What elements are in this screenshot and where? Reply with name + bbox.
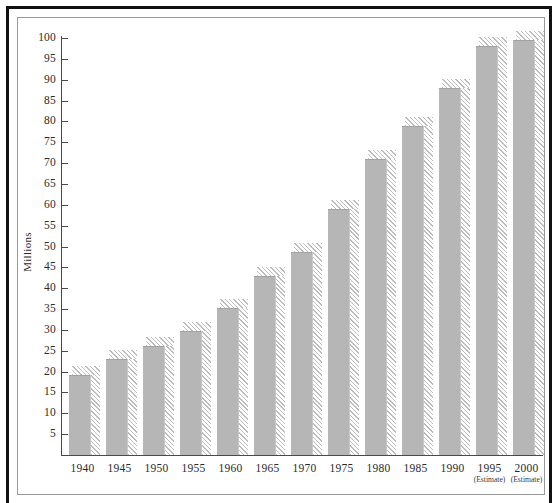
bar-shadow-hatch bbox=[90, 366, 100, 455]
y-axis-tick-label-text: 40 bbox=[30, 282, 56, 294]
bar-shadow-hatch bbox=[386, 150, 396, 455]
bar-solid-fill bbox=[402, 126, 423, 455]
y-axis-tick bbox=[61, 351, 68, 352]
bar-top-hatch bbox=[146, 337, 174, 346]
y-axis-tick-label-text: 10 bbox=[30, 407, 56, 419]
y-axis-tick-label: 40 bbox=[26, 282, 56, 294]
y-axis-tick-label-text: 100 bbox=[30, 32, 56, 44]
bar-solid-fill bbox=[513, 40, 534, 455]
bar-shadow-hatch bbox=[164, 337, 174, 455]
y-axis-tick-label: 30 bbox=[26, 324, 56, 336]
chart-page: Millions 5101520253035404550556065707580… bbox=[0, 0, 552, 503]
bar-1940 bbox=[69, 366, 100, 455]
y-axis-tick bbox=[61, 434, 68, 435]
bar-chart-plot: Millions 5101520253035404550556065707580… bbox=[0, 0, 552, 503]
bar-top-hatch bbox=[479, 37, 507, 46]
bar-1990 bbox=[439, 79, 470, 455]
y-axis-tick-label: 50 bbox=[26, 241, 56, 253]
y-axis-tick-label-text: 35 bbox=[30, 303, 56, 315]
bar-shadow-hatch bbox=[534, 31, 544, 455]
y-axis-tick bbox=[61, 288, 68, 289]
bar-shadow-hatch bbox=[497, 37, 507, 455]
bar-1980 bbox=[365, 150, 396, 455]
bar-solid-fill bbox=[143, 346, 164, 455]
bar-1995 bbox=[476, 37, 507, 455]
bar-top-hatch bbox=[257, 267, 285, 276]
bar-1985 bbox=[402, 117, 433, 455]
bar-1955 bbox=[180, 322, 211, 455]
y-axis-tick-label: 100 bbox=[26, 32, 56, 44]
y-axis-tick-label: 45 bbox=[26, 261, 56, 273]
bar-shadow-hatch bbox=[127, 350, 137, 455]
x-axis-label-year: 1940 bbox=[71, 462, 95, 474]
bar-shadow-hatch bbox=[238, 299, 248, 455]
bar-1950 bbox=[143, 337, 174, 455]
y-axis-tick-label-text: 60 bbox=[30, 199, 56, 211]
x-axis-line bbox=[61, 455, 543, 456]
y-axis-tick-label-text: 80 bbox=[30, 115, 56, 127]
y-axis-tick bbox=[61, 184, 68, 185]
y-axis-tick bbox=[61, 205, 68, 206]
y-axis-tick-label: 95 bbox=[26, 53, 56, 65]
y-axis-tick-label: 75 bbox=[26, 136, 56, 148]
bar-solid-fill bbox=[254, 276, 275, 455]
y-axis-tick-label-text: 65 bbox=[30, 178, 56, 190]
bar-1945 bbox=[106, 350, 137, 455]
bar-solid-fill bbox=[476, 46, 497, 455]
y-axis-tick-label: 20 bbox=[26, 366, 56, 378]
y-axis-tick bbox=[61, 80, 68, 81]
y-axis-tick-label: 55 bbox=[26, 220, 56, 232]
y-axis-tick bbox=[61, 392, 68, 393]
y-axis-tick-label: 60 bbox=[26, 199, 56, 211]
x-axis-label-year: 1955 bbox=[182, 462, 206, 474]
bar-1965 bbox=[254, 267, 285, 455]
y-axis-tick bbox=[61, 226, 68, 227]
bar-1960 bbox=[217, 299, 248, 455]
bar-solid-fill bbox=[328, 209, 349, 455]
y-axis-tick bbox=[61, 309, 68, 310]
y-axis-tick bbox=[61, 372, 68, 373]
y-axis-tick-label: 65 bbox=[26, 178, 56, 190]
bar-top-hatch bbox=[294, 243, 322, 252]
bar-1970 bbox=[291, 243, 322, 455]
y-axis-tick-label: 90 bbox=[26, 74, 56, 86]
y-axis-tick bbox=[61, 121, 68, 122]
y-axis-tick-label-text: 30 bbox=[30, 324, 56, 336]
y-axis-tick bbox=[61, 163, 68, 164]
x-axis-label-note: (Estimate) bbox=[500, 475, 552, 485]
y-axis-tick-label-text: 90 bbox=[30, 74, 56, 86]
y-axis-tick-label: 70 bbox=[26, 157, 56, 169]
bar-top-hatch bbox=[183, 322, 211, 331]
x-axis-label-year: 1945 bbox=[108, 462, 132, 474]
y-axis-tick-label: 80 bbox=[26, 115, 56, 127]
y-axis-tick-label-text: 55 bbox=[30, 220, 56, 232]
y-axis-tick-label: 5 bbox=[26, 428, 56, 440]
y-axis-tick bbox=[61, 267, 68, 268]
y-axis-tick-label-text: 95 bbox=[30, 53, 56, 65]
x-axis-label-year: 1950 bbox=[145, 462, 169, 474]
y-axis-tick bbox=[61, 330, 68, 331]
bar-top-hatch bbox=[405, 117, 433, 126]
y-axis-tick-label-text: 45 bbox=[30, 261, 56, 273]
bar-top-hatch bbox=[368, 150, 396, 159]
y-axis-tick-label: 15 bbox=[26, 386, 56, 398]
y-axis-tick bbox=[61, 38, 68, 39]
y-axis-tick-label-text: 15 bbox=[30, 386, 56, 398]
bar-top-hatch bbox=[442, 79, 470, 88]
bar-solid-fill bbox=[291, 252, 312, 455]
y-axis-tick-label-text: 50 bbox=[30, 241, 56, 253]
bar-shadow-hatch bbox=[460, 79, 470, 455]
bar-shadow-hatch bbox=[312, 243, 322, 455]
bar-2000 bbox=[513, 31, 544, 455]
bar-solid-fill bbox=[439, 88, 460, 455]
bar-solid-fill bbox=[69, 375, 90, 455]
bar-solid-fill bbox=[217, 308, 238, 455]
x-axis-label-year: 2000 bbox=[515, 462, 539, 474]
bar-top-hatch bbox=[109, 350, 137, 359]
bar-top-hatch bbox=[220, 299, 248, 308]
y-axis-tick bbox=[61, 101, 68, 102]
bar-top-hatch bbox=[331, 200, 359, 209]
x-axis-label-year: 1975 bbox=[330, 462, 354, 474]
bar-solid-fill bbox=[106, 359, 127, 455]
y-axis-tick bbox=[61, 59, 68, 60]
